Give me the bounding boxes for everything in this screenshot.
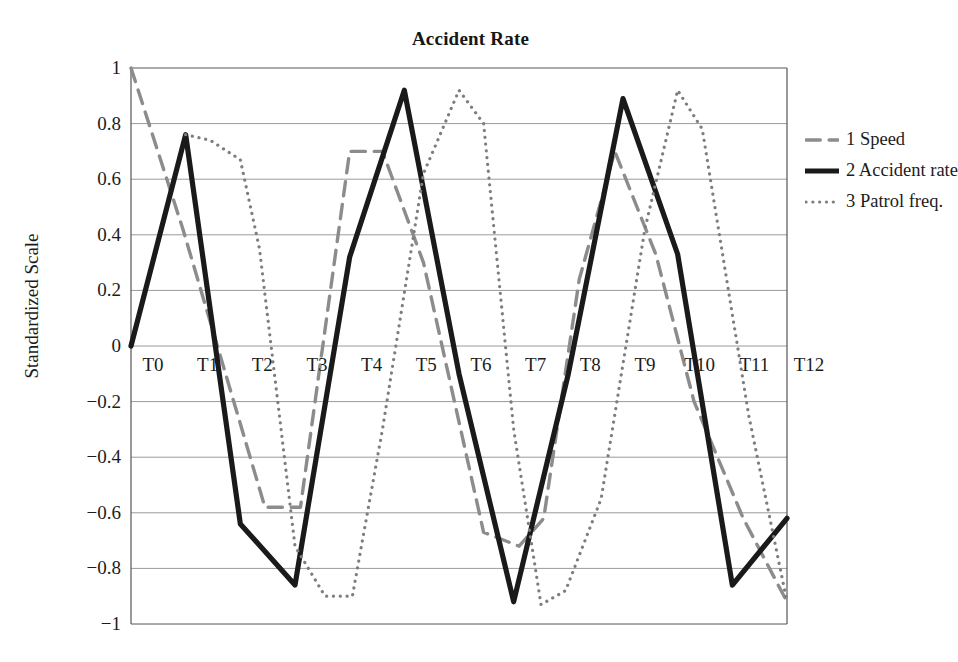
x-tick-label: T0 xyxy=(126,355,180,374)
legend-label: 1 Speed xyxy=(846,129,905,150)
legend-label: 2 Accident rate xyxy=(846,160,958,181)
x-tick-label: T11 xyxy=(727,355,781,374)
legend-swatch-dotted-icon xyxy=(805,195,839,209)
x-tick-label: T7 xyxy=(509,355,563,374)
y-tick-label: 0 xyxy=(61,336,121,355)
data-series-group xyxy=(131,68,787,605)
x-tick-label: T4 xyxy=(345,355,399,374)
legend-swatch-solid-icon xyxy=(805,164,839,178)
x-tick-label: T1 xyxy=(181,355,235,374)
y-tick-label: 0.6 xyxy=(61,169,121,188)
legend-swatch-dashed-icon xyxy=(805,133,839,147)
y-tick-label: −1 xyxy=(61,614,121,633)
x-tick-label: T12 xyxy=(782,355,836,374)
y-tick-label: 0.8 xyxy=(61,114,121,133)
y-tick-label: −0.8 xyxy=(61,558,121,577)
series-line xyxy=(186,90,787,604)
legend-item[interactable]: 2 Accident rate xyxy=(805,155,945,186)
legend-item[interactable]: 3 Patrol freq. xyxy=(805,186,945,217)
x-tick-label: T3 xyxy=(290,355,344,374)
y-tick-label: −0.2 xyxy=(61,392,121,411)
y-tick-label: −0.6 xyxy=(61,503,121,522)
y-tick-label: −0.4 xyxy=(61,447,121,466)
y-tick-label: 0.2 xyxy=(61,280,121,299)
x-tick-label: T10 xyxy=(673,355,727,374)
x-tick-label: T5 xyxy=(399,355,453,374)
x-tick-label: T8 xyxy=(563,355,617,374)
chart-title: Accident Rate xyxy=(0,28,941,50)
legend-item[interactable]: 1 Speed xyxy=(805,124,945,155)
chart-legend: 1 Speed2 Accident rate3 Patrol freq. xyxy=(805,124,945,217)
y-tick-label: 0.4 xyxy=(61,225,121,244)
x-tick-label: T6 xyxy=(454,355,508,374)
x-tick-label: T9 xyxy=(618,355,672,374)
legend-label: 3 Patrol freq. xyxy=(846,191,943,212)
y-axis-tick-labels: 10.80.60.40.20−0.2−0.4−0.6−0.8−1 xyxy=(55,0,121,662)
y-tick-label: 1 xyxy=(61,58,121,77)
y-axis-title: Standardized Scale xyxy=(21,206,43,406)
x-tick-label: T2 xyxy=(235,355,289,374)
